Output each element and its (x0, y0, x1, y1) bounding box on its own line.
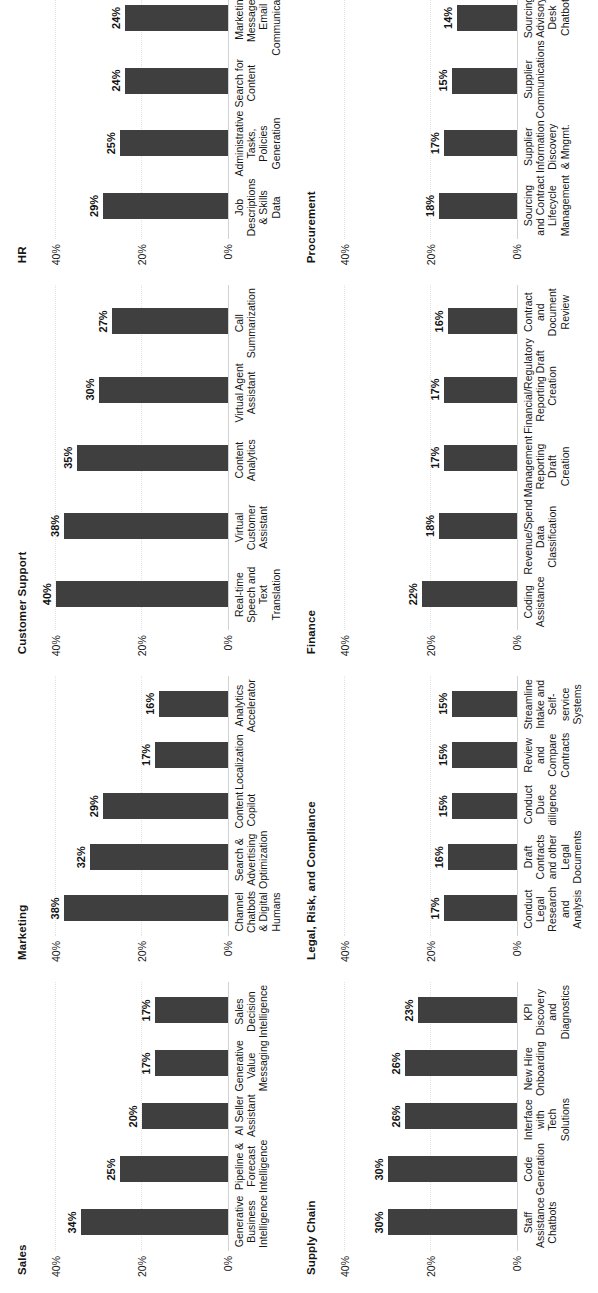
panel-inner: 17%16%15%15%15%0%20%40%Conduct Legal Res… (323, 676, 592, 962)
bar-slot: 38% (34, 883, 228, 934)
category-label: Sourcing and Contract Lifecycle Manageme… (522, 174, 592, 237)
bars-area: 29%25%24%24%23%0%20%40% (34, 0, 229, 239)
category-label: Analytics Accelerator (233, 678, 303, 733)
bar-value-label: 17% (429, 897, 441, 919)
category-label: Administrative Tasks, Policies Generatio… (233, 110, 303, 178)
category-label: Coding Assistance (522, 575, 592, 628)
category-label: Sourcing Advisory Desk Chatbot (522, 0, 592, 39)
category-label: Channel Chatbots & Digital Humans (233, 890, 303, 934)
value-axis (34, 1251, 303, 1277)
bar-value-label: 17% (429, 447, 441, 469)
value-axis (34, 239, 303, 265)
bar: 17% (155, 997, 228, 1023)
category-label: Revenue/Spend Data Classification (522, 498, 592, 575)
bar-value-label: 18% (424, 195, 436, 217)
bar: 16% (448, 308, 517, 334)
category-label: Review and Compare Contracts (522, 730, 592, 779)
bars-area: 17%16%15%15%15%0%20%40% (323, 676, 518, 936)
bar: 25% (120, 130, 228, 156)
category-label: Conduct Legal Research and Analysis (522, 884, 592, 933)
bar-slot: 22% (323, 560, 517, 628)
category-label: Interface with Tech Solutions (522, 1097, 592, 1142)
bars-area: 22%18%17%17%16%0%20%40% (323, 285, 518, 630)
bar: 17% (444, 377, 517, 403)
bar-value-label: 30% (84, 379, 96, 401)
bars-area: 38%32%29%17%16%0%20%40% (34, 676, 229, 936)
category-labels: Real-time Speech and Text TranslationVir… (229, 285, 303, 630)
category-labels: Sourcing and Contract Lifecycle Manageme… (518, 0, 592, 239)
bar-value-label: 34% (66, 1211, 78, 1233)
bar: 38% (64, 513, 228, 539)
panel-inner: 38%32%29%17%16%0%20%40%Channel Chatbots … (34, 676, 303, 962)
bar-value-label: 17% (140, 1052, 152, 1074)
bar: 15% (452, 793, 517, 819)
bar-value-label: 35% (62, 447, 74, 469)
category-label: New Hire Onboarding (522, 1040, 592, 1097)
bar-value-label: 17% (140, 999, 152, 1021)
bar-slot: 16% (323, 287, 517, 355)
bar: 26% (405, 1103, 517, 1129)
bar-value-label: 15% (437, 744, 449, 766)
bar-value-label: 30% (373, 1211, 385, 1233)
bar: 26% (405, 1050, 517, 1076)
bar-value-label: 22% (407, 583, 419, 605)
bar: 23% (418, 997, 517, 1023)
bar-slot: 26% (323, 1037, 517, 1090)
panel-body: 30%30%26%26%23%0%20%40%Staff Assistance … (323, 982, 592, 1251)
bar-slot: 17% (34, 984, 228, 1037)
bar-slot: 15% (323, 729, 517, 780)
category-labels: Staff Assistance ChatbotsCode Generation… (518, 982, 592, 1251)
panel-title: Sales (16, 982, 28, 1275)
bar-value-label: 16% (433, 310, 445, 332)
panel-body: 17%16%15%15%15%0%20%40%Conduct Legal Res… (323, 676, 592, 936)
bars-area: 34%25%20%17%17%0%20%40% (34, 982, 229, 1251)
category-label: Search & Advertising Optimization (233, 830, 303, 890)
category-label: Localization (233, 733, 303, 790)
value-axis (34, 630, 303, 656)
bar: 35% (77, 445, 228, 471)
bar: 24% (125, 68, 228, 94)
bar-slot: 32% (34, 832, 228, 883)
category-label: Code Generation (522, 1142, 592, 1196)
chart-panel-finance: Finance22%18%17%17%16%0%20%40%Coding Ass… (303, 275, 592, 666)
bar-value-label: 26% (390, 1105, 402, 1127)
plot-area: 30%30%26%26%23%0%20%40%Staff Assistance … (323, 982, 592, 1251)
bar-value-label: 17% (429, 132, 441, 154)
bar-value-label: 16% (433, 846, 445, 868)
bar-value-label: 27% (97, 310, 109, 332)
chart-panel-customer-support: Customer Support40%38%35%30%27%0%20%40%R… (14, 275, 303, 666)
category-label: KPI Discovery and Diagnostics (522, 984, 592, 1040)
bar: 17% (155, 742, 228, 768)
bar-slot: 20% (34, 1090, 228, 1143)
plot-area: 22%18%17%17%16%0%20%40%Coding Assistance… (323, 285, 592, 630)
bar-slot: 30% (323, 1143, 517, 1196)
bar-value-label: 38% (49, 897, 61, 919)
bar-value-label: 15% (437, 795, 449, 817)
category-label: Generative Value Messaging (233, 1039, 303, 1092)
category-label: AI Seller Assistant (233, 1092, 303, 1138)
category-label: Call Summarization (233, 287, 303, 359)
chart-panel-hr: HR29%25%24%24%23%0%20%40%Job Description… (14, 0, 303, 275)
category-label: Supplier Communications (522, 39, 592, 119)
panel-inner: 18%17%15%14%10%0%20%40%Sourcing and Cont… (323, 0, 592, 265)
bar-slot: 18% (323, 175, 517, 238)
category-labels: Generative Business IntelligencePipeline… (229, 982, 303, 1251)
bar: 14% (457, 5, 517, 31)
value-axis (34, 936, 303, 962)
bar: 17% (444, 445, 517, 471)
bar: 32% (90, 844, 228, 870)
bar-slot: 25% (34, 112, 228, 175)
category-label: Conduct Due diligence (522, 780, 592, 829)
category-label: Sales Decision Intelligence (233, 984, 303, 1039)
bar-slot: 14% (323, 0, 517, 49)
bar-slot: 17% (323, 883, 517, 934)
bars-area: 30%30%26%26%23%0%20%40% (323, 982, 518, 1251)
bar: 30% (99, 377, 228, 403)
category-label: Draft Contracts and other Legal Document… (522, 829, 592, 884)
panel-body: 34%25%20%17%17%0%20%40%Generative Busine… (34, 982, 303, 1251)
plot-area: 29%25%24%24%23%0%20%40%Job Descriptions … (34, 0, 303, 239)
category-label: Management Reporting Draft Creation (522, 435, 592, 498)
category-labels: Conduct Legal Research and AnalysisDraft… (518, 676, 592, 936)
value-axis (323, 1251, 592, 1277)
bar-chart-grid: Sales34%25%20%17%17%0%20%40%Generative B… (0, 0, 598, 1293)
